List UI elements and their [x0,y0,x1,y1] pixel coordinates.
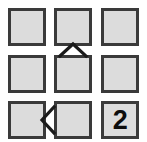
chevron-up-icon [58,42,88,57]
cell-r0-c2[interactable] [101,8,139,46]
cell-r2-c2[interactable]: 2 [101,101,139,139]
cell-r1-c1[interactable] [54,55,92,93]
cell-r0-c1[interactable] [54,8,92,46]
cell-r0-c0[interactable] [8,8,46,46]
chevron-left-icon [40,105,55,135]
cell-r2-c1[interactable] [54,101,92,139]
grid-diagram: 2 [0,0,147,142]
cell-label-2: 2 [113,107,128,134]
cell-r1-c0[interactable] [8,55,46,93]
cell-r1-c2[interactable] [101,55,139,93]
